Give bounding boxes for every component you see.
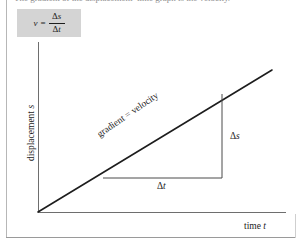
figure-container: The gradient of the displacement–time gr… [0, 0, 303, 242]
delta-t-label: Δt [157, 181, 166, 191]
delta-t-variable: t [163, 181, 166, 191]
delta-s-variable: s [236, 131, 240, 141]
delta-s-label: Δs [230, 131, 240, 141]
plot-graphics [0, 0, 303, 242]
